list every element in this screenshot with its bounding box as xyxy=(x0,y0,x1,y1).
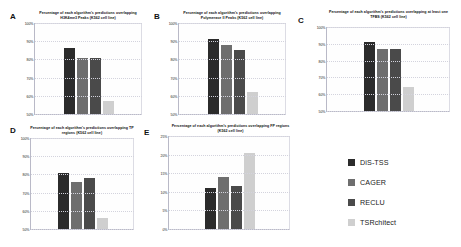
y-axis-tick-label: 90% xyxy=(23,155,31,159)
gridline: 100% xyxy=(31,138,134,139)
panel-c: C Percentage of each algorithm's predict… xyxy=(296,10,456,120)
gridline: 100% xyxy=(327,27,450,28)
bar-tsrchitect xyxy=(403,87,414,111)
gridline: 70% xyxy=(327,77,450,78)
legend-item-cager: CAGER xyxy=(348,172,396,192)
panel-d-plot-area: 100%90%80%70%60%50% xyxy=(30,138,134,230)
bar-cager xyxy=(218,177,229,229)
gridline: 90% xyxy=(179,41,286,42)
gridline: 70% xyxy=(31,193,134,194)
bar-dis-tss xyxy=(58,173,69,229)
panel-c-bars xyxy=(327,27,450,111)
gridline: 90% xyxy=(327,44,450,45)
gridline: 70% xyxy=(179,78,286,79)
y-axis-tick-label: 15% xyxy=(161,172,169,176)
gridline: 50% xyxy=(179,114,286,115)
gridline: 80% xyxy=(35,59,142,60)
panel-a-bars xyxy=(35,23,142,114)
y-axis-tick-label: 50% xyxy=(23,228,31,232)
y-axis-tick-label: 5% xyxy=(162,209,169,213)
panel-b-bars xyxy=(179,23,286,114)
bar-cager xyxy=(221,45,232,114)
gridline: 15% xyxy=(169,173,290,174)
bar-reclu xyxy=(390,49,401,111)
y-axis-tick-label: 60% xyxy=(27,95,35,99)
panel-a-title: Percentage of each algorithm's predictio… xyxy=(34,11,142,20)
legend-swatch-reclu xyxy=(348,199,355,206)
gridline: 100% xyxy=(179,23,286,24)
legend-item-dis-tss: DiS-TSS xyxy=(348,152,396,172)
y-axis-tick-label: 60% xyxy=(319,93,327,97)
panel-b: B Percentage of each algorithm's predict… xyxy=(152,10,292,120)
legend: DiS-TSS CAGER RECLU TSRchitect xyxy=(348,152,396,232)
y-axis-tick-label: 90% xyxy=(171,40,179,44)
gridline: 70% xyxy=(35,78,142,79)
legend-swatch-tsrchitect xyxy=(348,219,355,226)
y-axis-tick-label: 50% xyxy=(319,110,327,114)
y-axis-tick-label: 70% xyxy=(171,77,179,81)
gridline: 50% xyxy=(35,114,142,115)
bar-cager xyxy=(71,182,82,229)
gridline: 5% xyxy=(169,210,290,211)
bar-cager xyxy=(377,49,388,111)
panel-e: E Percentage of each algorithm's predict… xyxy=(142,124,302,238)
legend-label-tsrchitect: TSRchitect xyxy=(360,218,396,227)
gridline: 60% xyxy=(327,94,450,95)
panel-c-plot-area: 100%90%80%70%60%50% xyxy=(326,27,450,112)
y-axis-tick-label: 80% xyxy=(27,58,35,62)
gridline: 60% xyxy=(35,96,142,97)
gridline: 80% xyxy=(31,174,134,175)
legend-swatch-dis-tss xyxy=(348,159,355,166)
panel-a-plot-area: 100%90%80%70%60%50% xyxy=(34,23,142,115)
legend-label-reclu: RECLU xyxy=(360,198,385,207)
panel-d-title: Percentage of each algorithm's predictio… xyxy=(30,126,134,135)
panel-e-plot-area: 25%20%15%10%5%0% xyxy=(168,136,290,230)
gridline: 50% xyxy=(327,111,450,112)
panel-e-bars xyxy=(169,136,290,229)
y-axis-tick-label: 90% xyxy=(319,43,327,47)
panel-d-letter: D xyxy=(10,126,16,135)
gridline: 25% xyxy=(169,136,290,137)
panel-b-letter: B xyxy=(154,12,160,21)
gridline: 80% xyxy=(179,59,286,60)
gridline: 60% xyxy=(31,211,134,212)
y-axis-tick-label: 20% xyxy=(161,154,169,158)
gridline: 10% xyxy=(169,192,290,193)
bar-reclu xyxy=(84,178,95,229)
bar-tsrchitect xyxy=(97,218,108,229)
y-axis-tick-label: 90% xyxy=(27,40,35,44)
legend-swatch-cager xyxy=(348,179,355,186)
legend-label-dis-tss: DiS-TSS xyxy=(360,158,389,167)
y-axis-tick-label: 80% xyxy=(319,60,327,64)
panel-b-plot-area: 100%90%80%70%60%50% xyxy=(178,23,286,115)
y-axis-tick-label: 70% xyxy=(319,76,327,80)
y-axis-tick-label: 25% xyxy=(161,135,169,139)
y-axis-tick-label: 80% xyxy=(171,58,179,62)
panel-d: D Percentage of each algorithm's predict… xyxy=(8,126,138,238)
y-axis-tick-label: 10% xyxy=(161,191,169,195)
legend-label-cager: CAGER xyxy=(360,178,386,187)
panel-d-bars xyxy=(31,138,134,229)
y-axis-tick-label: 100% xyxy=(317,26,327,30)
panel-e-title: Percentage of each algorithm's predictio… xyxy=(168,124,293,133)
y-axis-tick-label: 100% xyxy=(21,137,31,141)
y-axis-tick-label: 0% xyxy=(162,228,169,232)
y-axis-tick-label: 70% xyxy=(27,77,35,81)
panel-c-letter: C xyxy=(298,16,304,25)
bar-dis-tss xyxy=(205,188,216,229)
y-axis-tick-label: 60% xyxy=(171,95,179,99)
y-axis-tick-label: 50% xyxy=(27,113,35,117)
bar-reclu xyxy=(90,58,101,114)
gridline: 60% xyxy=(179,96,286,97)
gridline: 50% xyxy=(31,229,134,230)
y-axis-tick-label: 50% xyxy=(171,113,179,117)
panel-a-letter: A xyxy=(10,12,16,21)
bar-tsrchitect xyxy=(103,101,114,114)
gridline: 0% xyxy=(169,229,290,230)
legend-item-tsrchitect: TSRchitect xyxy=(348,212,396,232)
y-axis-tick-label: 80% xyxy=(23,173,31,177)
gridline: 20% xyxy=(169,155,290,156)
gridline: 90% xyxy=(35,41,142,42)
gridline: 100% xyxy=(35,23,142,24)
y-axis-tick-label: 100% xyxy=(169,22,179,26)
